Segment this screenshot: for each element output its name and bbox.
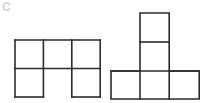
left-cell-r1c1 xyxy=(43,69,71,98)
shapes-diagram xyxy=(0,0,205,103)
right-cell-r2c1 xyxy=(140,71,169,99)
left-cell-r0c2 xyxy=(72,40,100,69)
right-cell-r2c0 xyxy=(111,71,140,99)
right-cell-r0c1 xyxy=(140,13,169,42)
right-cell-r2c2 xyxy=(169,71,199,99)
left-cell-r0c0 xyxy=(15,40,43,69)
left-shape xyxy=(15,40,100,97)
right-shape xyxy=(111,13,199,99)
right-cell-r1c1 xyxy=(140,42,169,71)
left-cell-r0c1 xyxy=(43,40,71,69)
figure-root: C xyxy=(0,0,205,103)
left-cell-r1c2 xyxy=(72,69,100,98)
left-cell-r1c0 xyxy=(15,69,43,98)
